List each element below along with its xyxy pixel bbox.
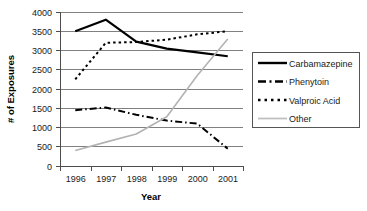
- series-line-other: [75, 39, 228, 151]
- legend[interactable]: Carbamazepine Phenytoin Valproic Acid Ot…: [253, 53, 360, 128]
- x-tick-label-1996: 1996: [66, 174, 86, 184]
- gridlines: [60, 12, 243, 147]
- x-tick-label-1998: 1998: [127, 174, 147, 184]
- legend-label-valproic-acid: Valproic Acid: [289, 96, 340, 106]
- y-tick-label-1500: 1500: [32, 104, 52, 114]
- y-tick-label-2000: 2000: [32, 85, 52, 95]
- y-tick-label-1000: 1000: [32, 123, 52, 133]
- y-tick-label-3500: 3500: [32, 27, 52, 37]
- series-line-valproic-acid: [75, 31, 228, 79]
- y-tick-label-3000: 3000: [32, 46, 52, 56]
- legend-label-other: Other: [289, 114, 312, 124]
- y-tick-label-0: 0: [47, 162, 52, 172]
- x-axis-tick-labels: 1996 1997 1998 1999 2000 2001: [66, 174, 238, 184]
- line-chart: 4000 3500 3000 2500 2000 1500 1000 500 0…: [0, 0, 367, 211]
- chart-canvas: 4000 3500 3000 2500 2000 1500 1000 500 0…: [0, 0, 367, 211]
- y-tick-label-4000: 4000: [32, 8, 52, 18]
- legend-label-phenytoin: Phenytoin: [289, 77, 329, 87]
- y-axis-tick-marks: [56, 12, 60, 166]
- y-tick-label-500: 500: [37, 142, 52, 152]
- x-axis-title: Year: [141, 191, 161, 202]
- series-line-phenytoin: [75, 107, 228, 148]
- x-tick-label-2000: 2000: [188, 174, 208, 184]
- x-tick-label-1997: 1997: [96, 174, 116, 184]
- x-tick-label-2001: 2001: [218, 174, 238, 184]
- legend-label-carbamazepine: Carbamazepine: [289, 59, 353, 69]
- x-tick-label-1999: 1999: [157, 174, 177, 184]
- y-axis-tick-labels: 4000 3500 3000 2500 2000 1500 1000 500 0: [32, 8, 52, 172]
- y-tick-label-2500: 2500: [32, 65, 52, 75]
- y-axis-title: # of Exposures: [5, 55, 16, 123]
- series-lines: [75, 20, 228, 151]
